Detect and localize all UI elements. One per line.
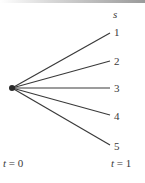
time-start-label: t = 0 (3, 158, 23, 169)
time-end-value: = 1 (117, 157, 131, 169)
time-end-var: t (111, 157, 114, 169)
branch-line-2 (12, 61, 110, 88)
branch-label-3: 3 (114, 83, 120, 94)
branch-label-2: 2 (114, 56, 120, 67)
branch-line-5 (12, 88, 110, 145)
time-end-label: t = 1 (111, 158, 131, 169)
branch-label-4: 4 (114, 111, 120, 122)
branch-label-1: 1 (114, 27, 120, 38)
branch-line-1 (12, 33, 110, 88)
time-start-var: t (3, 157, 6, 169)
tree-diagram (0, 0, 145, 183)
branch-line-4 (12, 88, 110, 115)
time-start-value: = 0 (9, 157, 23, 169)
root-node (9, 85, 15, 91)
state-axis-label: s (113, 9, 117, 20)
branch-label-5: 5 (114, 141, 120, 152)
